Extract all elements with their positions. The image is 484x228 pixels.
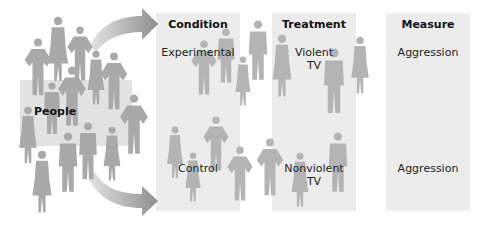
- people-label: People: [34, 105, 74, 118]
- condition-header: Condition: [156, 18, 240, 31]
- condition-control-label: Control: [156, 162, 240, 175]
- random-assignment-diagram: People Condition Experimental Control Tr…: [0, 0, 484, 228]
- treatment-nonviolent-tv-label: Nonviolent TV: [272, 162, 356, 188]
- treatment-violent-tv-label: Violent TV: [272, 46, 356, 72]
- treatment-header: Treatment: [272, 18, 356, 31]
- arrow-to-control-icon: [88, 168, 158, 216]
- condition-experimental-label: Experimental: [156, 46, 240, 59]
- measure-header: Measure: [386, 18, 470, 31]
- arrow-to-experimental-icon: [90, 8, 158, 52]
- measure-control-label: Aggression: [386, 162, 470, 175]
- measure-experimental-label: Aggression: [386, 46, 470, 59]
